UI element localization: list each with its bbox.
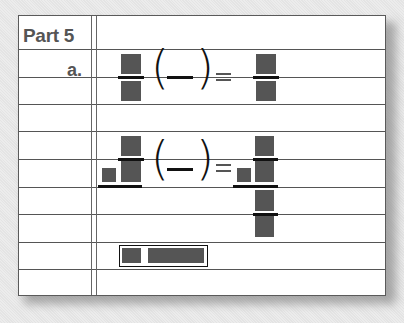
result-whole-box[interactable] [237,168,251,182]
result-lower-box[interactable] [255,190,274,211]
denominator-box[interactable] [121,81,141,101]
worksheet-paper: Part 5 a. ( ) ( ) [18,15,386,296]
answer-box-slot-2[interactable] [148,248,204,263]
part-title: Part 5 [23,25,74,47]
minus-sign [167,168,193,171]
close-paren: ) [196,44,214,90]
long-fraction-bar [233,185,278,188]
numerator-box[interactable] [121,54,141,74]
fraction-bar [253,76,279,79]
denominator-box[interactable] [121,161,141,182]
answer-box[interactable] [119,245,208,267]
result-denominator-box[interactable] [256,81,276,101]
result-numerator-box[interactable] [255,136,274,156]
equals-sign-bottom [216,170,231,172]
long-fraction-bar [98,185,142,188]
result-numerator-box[interactable] [256,54,276,74]
open-paren: ( [151,44,169,90]
open-paren: ( [151,135,169,181]
margin-line [96,16,97,295]
equals-sign-top [216,73,231,75]
equals-sign-bottom [216,79,231,81]
rule-line [19,269,385,270]
close-paren: ) [196,135,214,181]
margin-line [91,16,92,295]
result-lower-box-2[interactable] [255,216,274,237]
rule-line [19,214,385,215]
minus-sign [167,76,193,79]
fraction-bar [118,76,144,79]
rule-line [19,104,385,105]
item-label: a. [67,60,82,81]
rule-line [19,187,385,188]
whole-number-box[interactable] [102,168,116,182]
equals-sign-top [216,164,231,166]
numerator-box[interactable] [121,136,141,156]
rule-line [19,242,385,243]
result-denominator-box[interactable] [255,161,274,182]
answer-box-slot-1[interactable] [122,248,141,263]
